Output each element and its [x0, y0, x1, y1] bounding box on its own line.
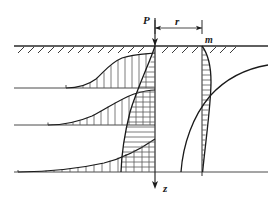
lower-boundary-group [181, 65, 268, 172]
depth-axis-label-z: z [162, 182, 168, 194]
level-2-distribution-curve [48, 90, 155, 125]
ground-surface-group [14, 46, 268, 53]
load-arrow-group: P [143, 14, 158, 46]
level-1-distribution-curve [66, 53, 155, 88]
radius-label-r: r [175, 15, 180, 27]
distribution-level-2-group [48, 90, 155, 125]
stress-distribution-diagram: P r m [0, 0, 273, 203]
distribution-level-1-group [66, 53, 155, 88]
radius-dimension-group: r [155, 15, 202, 34]
level-1-hatch-ticks [69, 54, 146, 88]
figure-container: P r m [0, 0, 273, 203]
point-label-m: m [205, 34, 213, 45]
lower-boundary-curve [181, 65, 268, 172]
load-label-P: P [143, 14, 150, 26]
point-m-distribution-group [202, 46, 211, 172]
ground-hatching-left [18, 47, 144, 53]
ground-hatching-right [162, 47, 236, 53]
depth-baselines-group [14, 88, 268, 172]
